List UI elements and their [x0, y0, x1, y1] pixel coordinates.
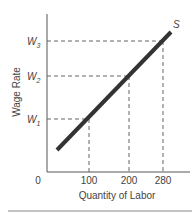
curve-label: S	[173, 19, 180, 30]
y-axis-label: Wage Rate	[11, 67, 22, 117]
supply-chart: S W3 W2 W1 Wage Rate 0 100 200 280 Quant…	[0, 0, 196, 213]
x-tick-200: 200	[121, 175, 138, 186]
y-tick-w2: W2	[27, 71, 40, 84]
x-tick-0: 0	[35, 175, 41, 186]
x-tick-100: 100	[81, 175, 98, 186]
x-tick-280: 280	[155, 175, 172, 186]
supply-curve	[57, 32, 171, 150]
y-tick-w1: W1	[27, 114, 40, 127]
y-tick-w3: W3	[27, 36, 40, 49]
x-axis-label: Quantity of Labor	[79, 190, 156, 201]
